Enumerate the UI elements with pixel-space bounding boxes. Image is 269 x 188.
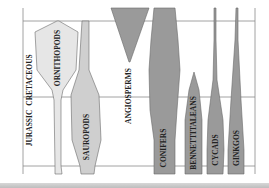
bottom-edge-shadow: [0, 183, 269, 188]
spindle-angiosperms: [111, 8, 149, 62]
period-label-jurassic: JURASSIC: [25, 110, 34, 147]
group-label-conifers: CONIFERS: [159, 129, 168, 168]
group-label-angiosperms: ANGIOSPERMS: [124, 68, 133, 124]
period-label-cretaceous: CRETACEOUS: [25, 54, 34, 106]
group-label-ginkgos: GINKGOS: [232, 130, 241, 166]
group-label-bennettitaleans: BENNETTITALEANS: [189, 96, 198, 170]
group-label-sauropods: SAUROPODS: [82, 114, 91, 160]
group-label-cycads: CYCADS: [211, 134, 220, 165]
spindle-diagram: CRETACEOUS JURASSIC ORNITHOPODS SAUROPOD…: [0, 0, 269, 188]
group-label-ornithopods: ORNITHOPODS: [53, 30, 62, 86]
